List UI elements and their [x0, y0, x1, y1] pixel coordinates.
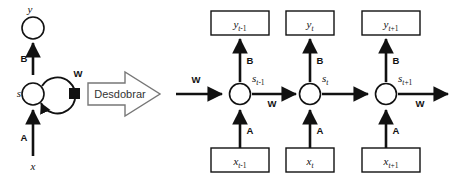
weight-B-label-step-2: B	[393, 55, 400, 66]
state-node-step-1	[300, 84, 321, 105]
folded-recurrent-weight-marker	[69, 88, 80, 99]
unfolded-outgoing-weight-label: W	[416, 98, 425, 109]
state-label-step-0: st-1	[252, 72, 265, 87]
folded-output-label: y	[27, 3, 33, 15]
state-label-step-2: st+1	[398, 72, 413, 87]
rnn-unfolding-diagram: y B s W A x Desdobrar W yt-1 B st-1 A xt…	[0, 0, 454, 178]
weight-A-label-step-1: A	[317, 125, 324, 136]
weight-W-label-step-0-to-1: W	[268, 98, 277, 109]
folded-state-node	[22, 83, 44, 105]
weight-A-label-step-2: A	[393, 125, 400, 136]
folded-weight-W-label: W	[74, 68, 83, 79]
weight-B-label-step-0: B	[247, 55, 254, 66]
unfolded-incoming-weight-label: W	[192, 74, 201, 85]
weight-B-label-step-1: B	[317, 55, 324, 66]
folded-output-node	[22, 17, 44, 39]
folded-weight-A-label: A	[21, 132, 28, 143]
folded-input-label: x	[30, 160, 36, 172]
state-node-step-2	[376, 84, 397, 105]
folded-state-label: s	[17, 87, 21, 99]
state-node-step-0	[230, 84, 251, 105]
folded-weight-B-label: B	[21, 53, 28, 64]
weight-A-label-step-0: A	[247, 125, 254, 136]
state-label-step-1: st	[322, 72, 329, 87]
unfold-label: Desdobrar	[94, 88, 146, 100]
